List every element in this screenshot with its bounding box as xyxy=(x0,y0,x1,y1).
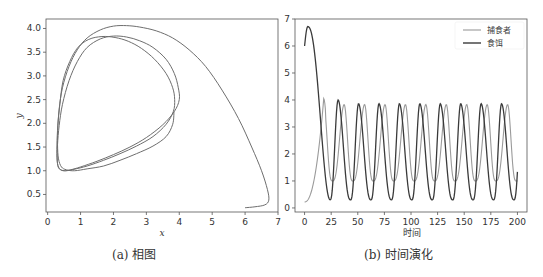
y-tick-label: 6 xyxy=(284,41,290,51)
time-evolution-chart: 025507510012515017520001234567捕食者食饵 xyxy=(284,14,527,227)
y-tick-label: 4 xyxy=(284,95,290,105)
x-tick-label: 200 xyxy=(509,217,526,227)
x-tick-label: 25 xyxy=(325,217,336,227)
caption-a: (a) 相图 xyxy=(112,245,156,262)
y-tick-label: 1 xyxy=(284,176,290,186)
x-tick-label: 2 xyxy=(111,217,117,227)
x-tick-label: 175 xyxy=(482,217,499,227)
phase-portrait-chart: 012345670.51.01.52.02.53.03.54.0 xyxy=(27,19,281,227)
x-tick-label: 100 xyxy=(402,217,419,227)
y-tick-label: 0.5 xyxy=(27,189,41,199)
left-frame xyxy=(46,19,278,212)
x-tick-label: 5 xyxy=(209,217,215,227)
y-tick-label: 1.0 xyxy=(27,166,42,176)
legend-label: 捕食者 xyxy=(487,25,511,35)
legend: 捕食者食饵 xyxy=(455,22,524,49)
x-tick-label: 1 xyxy=(78,217,84,227)
x-tick-label: 150 xyxy=(456,217,473,227)
y-tick-label: 3.5 xyxy=(27,47,41,57)
x-tick-label: 7 xyxy=(275,217,281,227)
left-y-axis-label: y xyxy=(14,113,24,120)
y-tick-label: 1.5 xyxy=(27,142,41,152)
x-tick-label: 75 xyxy=(379,217,390,227)
y-tick-label: 3.0 xyxy=(27,71,42,81)
left-x-axis-label: x xyxy=(159,228,164,238)
x-tick-label: 50 xyxy=(352,217,364,227)
y-tick-label: 5 xyxy=(284,68,290,78)
caption-b: (b) 时间演化 xyxy=(364,245,433,262)
x-tick-label: 125 xyxy=(429,217,446,227)
right-x-axis-label: 时间 xyxy=(403,227,421,238)
phase-trajectory-line xyxy=(57,26,269,208)
figure: 012345670.51.01.52.02.53.03.54.0 0255075… xyxy=(0,0,543,277)
legend-label: 食饵 xyxy=(487,38,503,48)
y-tick-label: 4.0 xyxy=(27,23,42,33)
y-tick-label: 7 xyxy=(284,14,290,24)
y-tick-label: 2.0 xyxy=(27,118,42,128)
x-tick-label: 3 xyxy=(144,217,150,227)
y-tick-label: 0 xyxy=(284,203,290,213)
x-tick-label: 6 xyxy=(242,217,248,227)
y-tick-label: 2 xyxy=(284,149,290,159)
x-tick-label: 0 xyxy=(302,217,308,227)
x-tick-label: 0 xyxy=(45,217,51,227)
y-tick-label: 3 xyxy=(284,122,290,132)
x-tick-label: 4 xyxy=(176,217,182,227)
y-tick-label: 2.5 xyxy=(27,95,41,105)
